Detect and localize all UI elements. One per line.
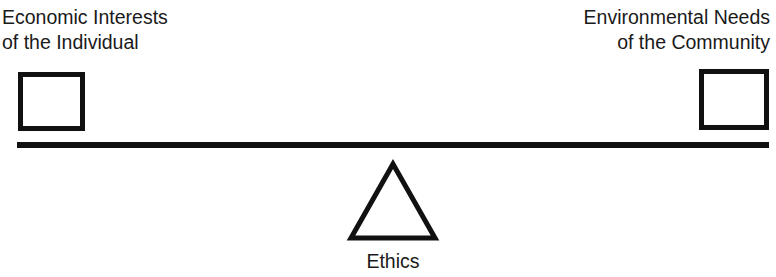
balance-beam: [17, 142, 769, 148]
right-label-line-2: of the Community: [584, 30, 770, 55]
left-label-line-1: Economic Interests: [2, 5, 168, 30]
left-weight-square-icon: [18, 72, 85, 131]
left-weight-label: Economic Interests of the Individual: [2, 5, 168, 55]
right-label-line-1: Environmental Needs: [584, 5, 770, 30]
fulcrum-triangle-icon: [345, 158, 441, 244]
right-weight-square-icon: [699, 69, 769, 130]
fulcrum-label: Ethics: [0, 250, 776, 273]
left-label-line-2: of the Individual: [2, 30, 168, 55]
right-weight-label: Environmental Needs of the Community: [584, 5, 770, 55]
